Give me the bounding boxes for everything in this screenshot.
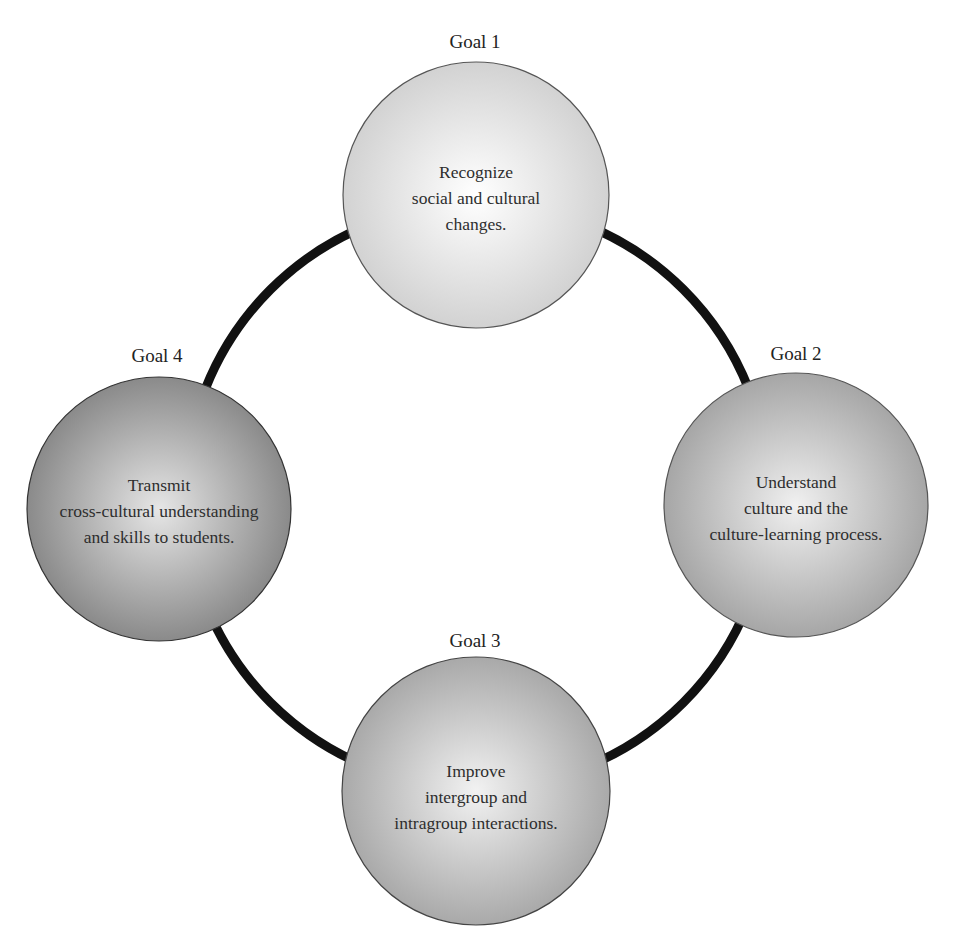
goal-3-line-3: intragroup interactions. (394, 810, 557, 836)
goal-1-line-2: social and cultural (412, 185, 540, 211)
goal-2-line-2: culture and the (710, 495, 883, 521)
goal-4-description: Transmit cross-cultural understanding an… (60, 472, 259, 550)
goal-3-label: Goal 3 (449, 631, 500, 650)
goal-2-description: Understand culture and the culture-learn… (710, 469, 883, 547)
goal-1-description: Recognize social and cultural changes. (412, 159, 540, 237)
goal-2-line-1: Understand (710, 469, 883, 495)
goal-4-line-3: and skills to students. (60, 524, 259, 550)
goal-4-label: Goal 4 (131, 346, 182, 365)
goal-4-line-1: Transmit (60, 472, 259, 498)
goal-1-line-1: Recognize (412, 159, 540, 185)
goal-3-line-1: Improve (394, 758, 557, 784)
goal-1-line-3: changes. (412, 211, 540, 237)
goal-1-label: Goal 1 (449, 32, 500, 51)
goal-4-line-2: cross-cultural understanding (60, 498, 259, 524)
goal-3-description: Improve intergroup and intragroup intera… (394, 758, 557, 836)
goal-3-line-2: intergroup and (394, 784, 557, 810)
goal-2-label: Goal 2 (770, 344, 821, 363)
goal-2-line-3: culture-learning process. (710, 521, 883, 547)
